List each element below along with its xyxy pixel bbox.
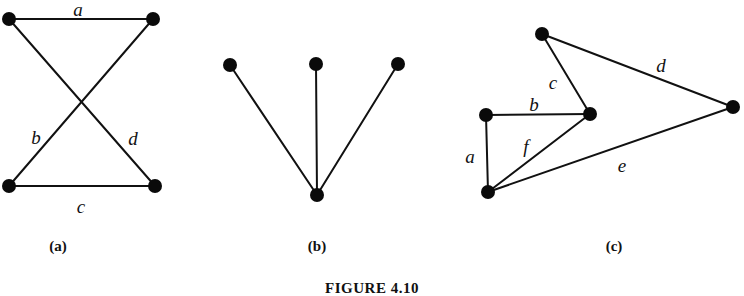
panel-c-edge-e-label: e [618, 156, 626, 175]
vertex-a-bottom-right [148, 179, 162, 193]
vertex-c-bottom [481, 185, 495, 199]
panel-b-edge-left-spoke [230, 65, 317, 195]
panel-a-edge-d-label: d [128, 129, 138, 148]
panel-c-edge-c-label: c [549, 73, 557, 92]
panel-c-edge-d-label: d [656, 56, 666, 75]
vertex-c-left [479, 108, 493, 122]
panel-b-edge-middle-spoke [316, 64, 317, 195]
vertex-c-right [726, 100, 740, 114]
panel-c-caption: (c) [606, 239, 623, 254]
vertex-b-bottom-center [310, 188, 324, 202]
panel-b-caption: (b) [308, 239, 326, 254]
panel-c-edge-f-label: f [523, 137, 528, 156]
vertex-a-top-right [146, 12, 160, 26]
panel-a-edge-a-label: a [73, 0, 83, 19]
panel-c-edge-a-label: a [465, 147, 475, 166]
panel-a-edge-c-label: c [77, 197, 85, 216]
figure-caption: FIGURE 4.10 [325, 281, 419, 296]
panel-a-edge-b-label: b [31, 128, 41, 147]
vertex-a-bottom-left [2, 179, 16, 193]
vertex-a-top-left [2, 12, 16, 26]
panel-a-caption: (a) [49, 239, 67, 254]
panel-c-edge-b-label: b [529, 95, 539, 114]
vertex-c-center [583, 107, 597, 121]
vertex-b-top-left [223, 58, 237, 72]
panel-b-edge-right-spoke [317, 64, 398, 195]
vertex-c-top [535, 27, 549, 41]
panel-c-edge-f [488, 114, 590, 192]
vertex-b-top-middle [309, 57, 323, 71]
panel-c-edge-a [486, 115, 488, 192]
panel-c-edge-d [542, 34, 733, 107]
vertex-b-top-right [391, 57, 405, 71]
